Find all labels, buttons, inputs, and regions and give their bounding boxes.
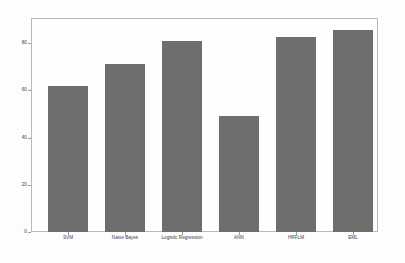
y-tick-mark-0 <box>28 232 31 233</box>
bar-naive-bayes[interactable] <box>105 64 145 232</box>
x-tick-label-ann: ANN <box>209 236 269 241</box>
y-tick-mark-20 <box>28 185 31 186</box>
x-tick-label-naive-bayes: Naive Bayes <box>95 236 155 241</box>
y-tick-mark-60 <box>28 90 31 91</box>
bar-hrflm[interactable] <box>276 37 316 232</box>
y-tick-label-20: 20 <box>0 183 27 188</box>
y-tick-label-0: 0 <box>0 230 27 235</box>
y-tick-mark-80 <box>28 43 31 44</box>
bar-eml[interactable] <box>333 30 373 232</box>
plot-area <box>32 19 377 232</box>
bar-chart-figure: 0 20 40 60 80 SVM Naive Bayes Logistic R… <box>0 0 405 263</box>
y-tick-label-40: 40 <box>0 136 27 141</box>
x-tick-label-hrflm: HRFLM <box>266 236 326 241</box>
bar-ann[interactable] <box>219 116 259 232</box>
x-tick-label-eml: EML <box>323 236 383 241</box>
x-tick-label-logistic-regression: Logistic Regression <box>152 236 212 241</box>
y-tick-mark-40 <box>28 138 31 139</box>
bar-svm[interactable] <box>48 86 88 232</box>
bar-logistic-regression[interactable] <box>162 41 202 232</box>
y-tick-label-80: 80 <box>0 41 27 46</box>
y-tick-label-60: 60 <box>0 88 27 93</box>
x-tick-label-svm: SVM <box>38 236 98 241</box>
